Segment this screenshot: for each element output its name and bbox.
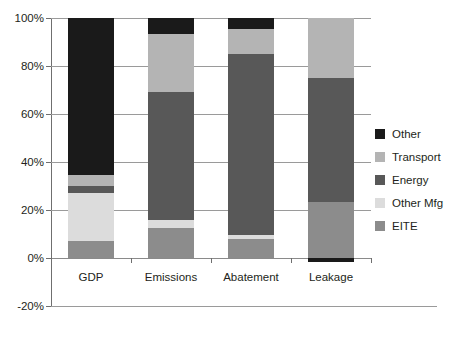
x-axis-label-leakage: Leakage — [309, 271, 353, 283]
bar-segment-other-mfg-abatement — [228, 235, 274, 239]
y-tick-mark — [46, 306, 51, 307]
bar-segment-eite-emissions — [148, 228, 194, 258]
bar-segment-eite-leakage — [308, 202, 354, 258]
y-tick-label: 40% — [0, 156, 44, 168]
x-tick-mark — [211, 258, 212, 263]
bar-segment-other-leakage — [308, 258, 354, 262]
x-axis-label-gdp: GDP — [79, 271, 104, 283]
legend-swatch-icon — [375, 175, 385, 185]
x-tick-mark — [131, 258, 132, 263]
bar-segment-transport-abatement — [228, 29, 274, 54]
bar-segment-energy-leakage — [308, 78, 354, 202]
legend-item-energy[interactable]: Energy — [375, 168, 443, 191]
bar-segment-energy-abatement — [228, 54, 274, 235]
y-tick-label: 0% — [0, 252, 44, 264]
legend-label: Transport — [392, 151, 441, 163]
y-tick-label: -20% — [0, 300, 44, 312]
stacked-bar-chart: -20%0%20%40%60%80%100% GDPEmissionsAbate… — [0, 0, 457, 362]
y-tick-label: 100% — [0, 12, 44, 24]
x-axis-label-abatement: Abatement — [223, 271, 279, 283]
x-axis-label-emissions: Emissions — [145, 271, 197, 283]
legend-label: Energy — [392, 174, 428, 186]
legend-item-other[interactable]: Other — [375, 122, 443, 145]
bar-segment-other-abatement — [228, 18, 274, 29]
bar-segment-other-mfg-gdp — [68, 193, 114, 241]
gridline — [51, 306, 437, 307]
bar-segment-transport-gdp — [68, 175, 114, 186]
y-tick-label: 60% — [0, 108, 44, 120]
legend-label: Other — [392, 128, 421, 140]
x-tick-mark — [371, 258, 372, 263]
legend-swatch-icon — [375, 129, 385, 139]
legend-swatch-icon — [375, 198, 385, 208]
legend-item-transport[interactable]: Transport — [375, 145, 443, 168]
chart-legend: OtherTransportEnergyOther MfgEITE — [375, 122, 443, 237]
bar-segment-energy-gdp — [68, 186, 114, 193]
legend-item-other-mfg[interactable]: Other Mfg — [375, 191, 443, 214]
bar-segment-other-gdp — [68, 18, 114, 175]
legend-label: EITE — [392, 220, 418, 232]
bar-segment-energy-emissions — [148, 92, 194, 219]
bar-segment-transport-leakage — [308, 18, 354, 78]
x-tick-mark — [291, 258, 292, 263]
y-tick-label: 80% — [0, 60, 44, 72]
bar-segment-eite-abatement — [228, 239, 274, 258]
bar-segment-transport-emissions — [148, 34, 194, 93]
bar-segment-other-emissions — [148, 18, 194, 34]
x-tick-mark — [51, 258, 52, 263]
legend-swatch-icon — [375, 152, 385, 162]
bar-segment-other-mfg-emissions — [148, 220, 194, 228]
bar-segment-eite-gdp — [68, 241, 114, 258]
legend-swatch-icon — [375, 221, 385, 231]
legend-label: Other Mfg — [392, 197, 443, 209]
y-tick-label: 20% — [0, 204, 44, 216]
legend-item-eite[interactable]: EITE — [375, 214, 443, 237]
